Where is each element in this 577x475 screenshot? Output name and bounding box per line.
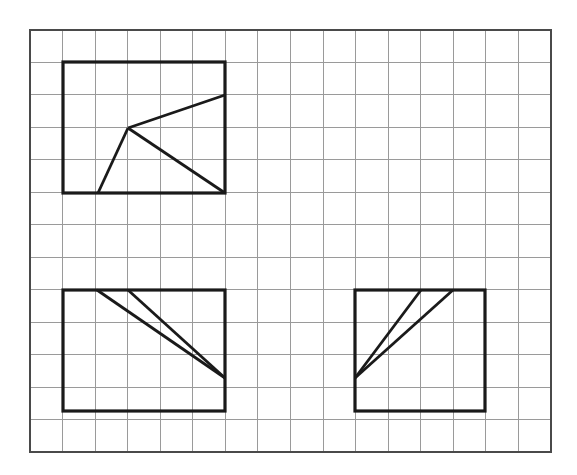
diagram-canvas: [0, 0, 577, 475]
page-background: [0, 0, 577, 475]
figure-svg: [0, 0, 577, 475]
